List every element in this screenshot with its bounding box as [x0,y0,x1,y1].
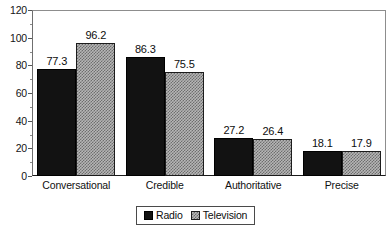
legend-label-television: Television [203,210,248,221]
x-tick-label: Conversational [32,179,121,191]
y-tick-major [28,176,32,177]
bar-value-label: 75.5 [160,59,209,70]
legend-entry-radio: Radio [144,210,183,221]
bar-value-label: 17.9 [337,138,386,149]
legend: Radio Television [136,206,255,225]
y-tick-label: 80 [16,60,27,70]
bars-layer: 77.396.286.375.527.226.418.117.9 [32,10,386,176]
bar-chart: 020406080100120 77.396.286.375.527.226.4… [0,0,392,231]
legend-label-radio: Radio [156,210,183,221]
bar-radio [214,138,253,176]
y-tick-label: 40 [16,116,27,126]
y-axis: 020406080100120 [0,10,32,176]
y-tick-label: 60 [16,88,27,98]
legend-swatch-radio-icon [144,211,153,220]
x-tick-label: Precise [298,179,387,191]
y-tick-label: 120 [10,5,27,15]
legend-swatch-television-icon [191,211,200,220]
bar-radio [303,151,342,176]
x-tick-label: Authoritative [209,179,298,191]
x-tick-label: Credible [121,179,210,191]
y-tick-label: 20 [16,143,27,153]
x-axis-labels: ConversationalCredibleAuthoritativePreci… [32,179,386,197]
bar-value-label: 96.2 [71,30,120,41]
bar-television [253,139,292,176]
bar-value-label: 26.4 [248,126,297,137]
bar-television [165,72,204,176]
bar-television [342,151,381,176]
bar-value-label: 77.3 [32,56,81,67]
y-tick-label: 0 [21,171,27,181]
bar-radio [126,57,165,176]
legend-entry-television: Television [191,210,248,221]
bar-radio [37,69,76,176]
bar-value-label: 86.3 [121,44,170,55]
bar-television [76,43,115,176]
y-tick-label: 100 [10,33,27,43]
